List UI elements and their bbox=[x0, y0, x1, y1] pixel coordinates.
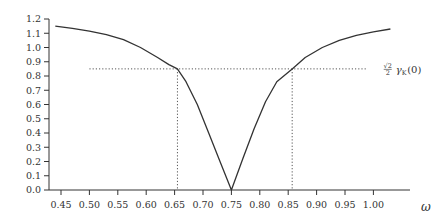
y-axis-ticks: 0.00.10.20.30.40.50.60.70.80.91.01.11.2 bbox=[26, 13, 49, 195]
x-tick-label: 0.85 bbox=[278, 199, 299, 210]
y-tick-label: 0.6 bbox=[26, 99, 41, 110]
y-tick-label: 0.0 bbox=[26, 184, 41, 195]
x-tick-label: 0.45 bbox=[50, 199, 71, 210]
x-tick-label: 1.00 bbox=[363, 199, 384, 210]
x-tick-label: 0.95 bbox=[334, 199, 355, 210]
y-tick-label: 0.7 bbox=[26, 85, 41, 96]
y-tick-label: 0.3 bbox=[26, 142, 41, 153]
y-tick-label: 0.8 bbox=[26, 70, 41, 81]
x-tick-label: 0.80 bbox=[249, 199, 270, 210]
y-tick-label: 1.0 bbox=[26, 42, 41, 53]
reference-line-label: √22γK(0) bbox=[384, 62, 422, 78]
axes bbox=[49, 19, 410, 190]
reference-lines bbox=[89, 69, 367, 190]
label-argument: (0) bbox=[407, 64, 421, 75]
data-line bbox=[55, 26, 390, 190]
y-tick-label: 0.9 bbox=[26, 56, 41, 67]
chart: 0.450.500.550.600.650.700.750.800.850.90… bbox=[0, 0, 440, 218]
y-tick-label: 1.1 bbox=[26, 28, 41, 39]
data-series bbox=[55, 26, 390, 190]
label-fraction-denominator: 2 bbox=[386, 69, 390, 77]
x-tick-label: 0.55 bbox=[107, 199, 128, 210]
x-tick-label: 0.75 bbox=[221, 199, 242, 210]
y-tick-label: 0.4 bbox=[26, 127, 41, 138]
y-tick-label: 0.5 bbox=[26, 113, 41, 124]
x-tick-label: 0.65 bbox=[164, 199, 185, 210]
y-tick-label: 0.2 bbox=[26, 156, 41, 167]
x-axis-ticks: 0.450.500.550.600.650.700.750.800.850.90… bbox=[50, 190, 384, 210]
x-tick-label: 0.70 bbox=[192, 199, 213, 210]
y-tick-label: 0.1 bbox=[26, 170, 41, 181]
y-tick-label: 1.2 bbox=[26, 13, 41, 24]
label-subscript: K bbox=[402, 69, 407, 77]
x-tick-label: 0.90 bbox=[306, 199, 327, 210]
x-tick-label: 0.60 bbox=[136, 199, 157, 210]
x-axis-title: ω bbox=[421, 200, 431, 214]
x-tick-label: 0.50 bbox=[79, 199, 100, 210]
